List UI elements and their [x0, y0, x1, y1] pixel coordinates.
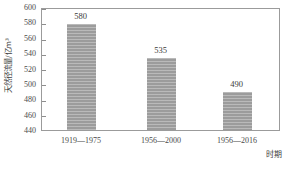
x-axis-title: 时期: [266, 150, 282, 159]
y-tick-label: 520: [24, 66, 36, 74]
bar-chart: 天然径流量/亿m³ 600 580 560 540 520 500 480 46…: [0, 0, 290, 171]
y-tick-label: 580: [24, 19, 36, 27]
y-tick-mark: [42, 70, 46, 71]
y-axis-title: 天然径流量/亿m³: [0, 0, 14, 130]
plot-area: [41, 8, 280, 131]
bar-value-label: 490: [230, 80, 243, 89]
bar-value-label: 580: [74, 12, 87, 21]
y-tick-label: 460: [24, 112, 36, 120]
y-tick-label: 540: [24, 50, 36, 58]
y-axis-title-text: 天然径流量/亿m³: [2, 38, 13, 93]
x-tick-label: 1956—2016: [217, 136, 257, 145]
y-tick-mark: [42, 24, 46, 25]
y-axis-tick-labels: 600 580 560 540 520 500 480 460 440: [13, 8, 39, 131]
y-tick-label: 600: [24, 4, 36, 12]
bar: [67, 24, 96, 130]
y-tick-label: 500: [24, 81, 36, 89]
bar-value-label: 535: [154, 46, 167, 55]
y-tick-mark: [42, 9, 46, 10]
bar: [147, 58, 176, 130]
y-tick-label: 440: [24, 127, 36, 135]
x-tick-label: 1956—2000: [141, 136, 181, 145]
y-tick-label: 480: [24, 96, 36, 104]
y-tick-mark: [42, 85, 46, 86]
y-tick-mark: [42, 116, 46, 117]
y-tick-mark: [42, 40, 46, 41]
x-tick-label: 1919—1975: [61, 136, 101, 145]
bar: [223, 92, 252, 130]
y-tick-mark: [42, 101, 46, 102]
y-tick-mark: [42, 55, 46, 56]
y-tick-label: 560: [24, 35, 36, 43]
